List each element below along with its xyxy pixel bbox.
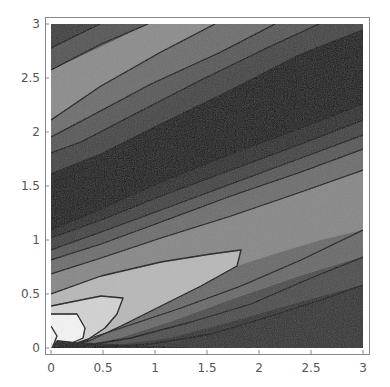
y-tick-label: 1.5 [21, 179, 40, 193]
y-tick-label: 1 [32, 233, 40, 247]
plot-area [51, 24, 363, 348]
x-tick-label: 1 [151, 361, 159, 375]
x-tick-label: 1.5 [197, 361, 216, 375]
y-axis-labels: 0 0.5 1 1.5 2 2.5 3 [21, 17, 40, 355]
x-axis-labels: 0 0.5 1 1.5 2 2.5 3 [47, 361, 367, 375]
x-axis-ticks [51, 350, 363, 354]
x-tick-label: 2.5 [301, 361, 320, 375]
y-tick-label: 2.5 [21, 71, 40, 85]
x-tick-label: 0 [47, 361, 55, 375]
y-tick-label: 3 [32, 17, 40, 31]
contour-plot: 0 0.5 1 1.5 2 2.5 3 0 0.5 1 1.5 2 2.5 3 [0, 0, 390, 387]
x-tick-label: 3 [359, 361, 367, 375]
y-tick-label: 2 [32, 125, 40, 139]
y-tick-label: 0 [32, 341, 40, 355]
x-tick-label: 2 [255, 361, 263, 375]
x-tick-label: 0.5 [93, 361, 112, 375]
y-tick-label: 0.5 [21, 287, 40, 301]
